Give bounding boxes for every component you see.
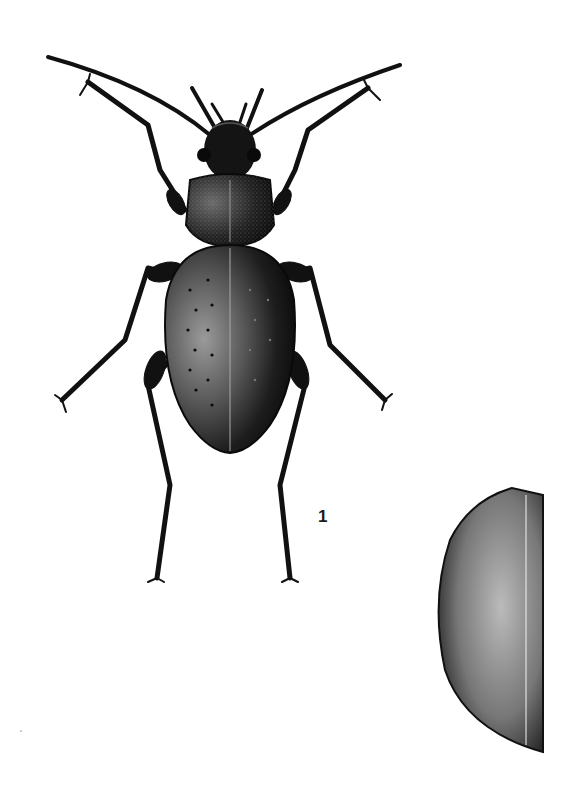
beetle-head [197, 120, 261, 180]
figure-number-label: 1 [318, 507, 327, 527]
stray-mark [20, 730, 22, 732]
beetle-pronotum [186, 174, 274, 247]
beetle-elytra [165, 245, 295, 453]
elytron-detail-figure [430, 485, 545, 755]
beetle-illustration [0, 0, 583, 806]
illustration-plate: 1 [0, 0, 583, 806]
